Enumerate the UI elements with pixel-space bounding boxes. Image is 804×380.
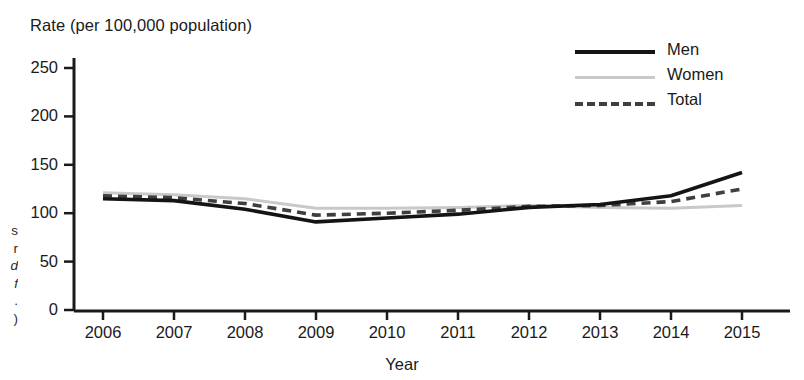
y-tick-label: 50 <box>12 252 58 271</box>
y-tick-label: 100 <box>12 203 58 222</box>
legend-label-women: Women <box>667 65 724 84</box>
chart-legend: MenWomenTotal <box>575 40 735 115</box>
legend-item-total: Total <box>575 90 735 115</box>
x-tick-label: 2007 <box>142 323 206 342</box>
x-tick-label: 2012 <box>497 323 561 342</box>
legend-item-men: Men <box>575 40 735 65</box>
y-tick-label: 0 <box>12 300 58 319</box>
x-tick-label: 2008 <box>213 323 277 342</box>
x-tick-label: 2015 <box>710 323 774 342</box>
y-tick-label: 200 <box>12 106 58 125</box>
x-tick-label: 2013 <box>568 323 632 342</box>
caption-line-4: f <box>0 275 18 293</box>
legend-item-women: Women <box>575 65 735 90</box>
x-axis-title: Year <box>0 355 804 374</box>
x-tick-label: 2014 <box>639 323 703 342</box>
legend-swatch-men <box>575 50 655 54</box>
y-axis-title: Rate (per 100,000 population) <box>30 16 252 35</box>
data-series-layer <box>103 173 742 222</box>
legend-swatch-women <box>575 76 655 79</box>
x-tick-label: 2010 <box>355 323 419 342</box>
y-tick-label: 150 <box>12 155 58 174</box>
legend-label-total: Total <box>667 90 702 109</box>
chart-figure: Rate (per 100,000 population) s r d f . … <box>0 0 804 380</box>
y-tick-label: 250 <box>12 58 58 77</box>
caption-line-1: s <box>0 222 18 240</box>
legend-label-men: Men <box>667 40 699 59</box>
x-tick-label: 2006 <box>71 323 135 342</box>
x-tick-label: 2011 <box>426 323 490 342</box>
x-tick-label: 2009 <box>284 323 348 342</box>
legend-swatch-total <box>575 102 655 106</box>
